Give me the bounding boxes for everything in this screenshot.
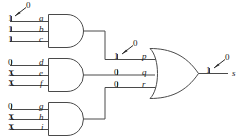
or-gate-shape	[150, 49, 199, 99]
annotation-value-s: 0	[225, 53, 230, 62]
input-label-i: i	[41, 123, 44, 132]
input-value-c: 1	[8, 35, 13, 44]
signal-label-r: r	[142, 80, 146, 89]
input-value-f: X	[8, 79, 15, 88]
signal-label-q: q	[142, 68, 147, 77]
input-value-g: 0	[8, 102, 13, 111]
signal-label-p: p	[142, 52, 147, 61]
annotation-arrow-s	[214, 60, 225, 69]
input-value-d: 0	[8, 58, 13, 67]
input-value-h: X	[8, 113, 15, 122]
signal-value-q: 0	[114, 68, 119, 77]
input-value-e: X	[8, 69, 15, 78]
and-gate-middle-shape	[49, 59, 84, 92]
input-value-b: 1	[8, 25, 13, 34]
output-label-s: s	[232, 69, 236, 78]
output-value-s: 1	[206, 66, 211, 75]
input-label-f: f	[40, 79, 43, 88]
signal-value-r: 0	[114, 80, 119, 89]
annotation-value-p: 0	[133, 39, 138, 48]
and-gate-bottom-shape	[49, 103, 84, 136]
input-label-d: d	[39, 58, 44, 67]
output-wire-and3	[84, 88, 114, 120]
circuit-diagram-canvas: 1 1 1 a b c 0 0 X X d e f 0 X X g h i 1 …	[0, 0, 244, 139]
signal-value-p: 1	[114, 52, 119, 61]
annotation-arrow-p	[122, 46, 133, 55]
input-value-i: X	[8, 123, 15, 132]
annotation-arrow-a	[15, 8, 26, 17]
input-label-a: a	[39, 14, 44, 23]
input-label-e: e	[39, 69, 43, 78]
and-gate-top-shape	[49, 15, 84, 48]
input-label-c: c	[39, 35, 43, 44]
input-label-g: g	[39, 102, 44, 111]
output-wire-and1	[84, 31, 114, 60]
input-label-h: h	[39, 113, 44, 122]
input-value-a: 1	[8, 14, 13, 23]
input-label-b: b	[39, 25, 44, 34]
annotation-value-a: 0	[26, 1, 31, 10]
